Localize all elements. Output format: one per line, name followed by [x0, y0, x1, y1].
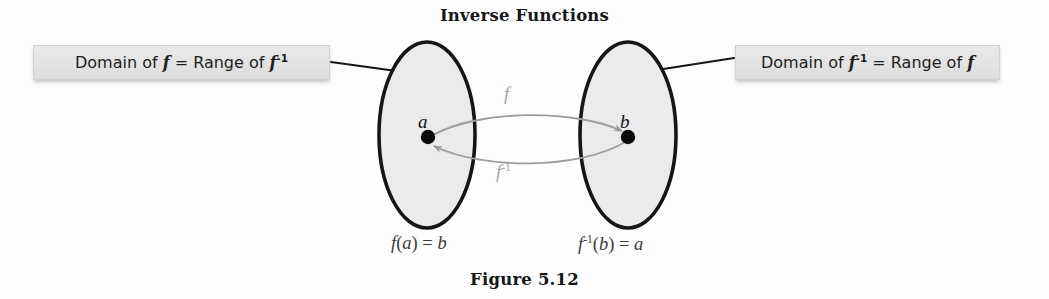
callout-right-var1: f — [849, 54, 856, 73]
callout-left-exponent2: -1 — [276, 52, 288, 64]
point-label-a: a — [418, 112, 428, 131]
equation-inverse: f-1(b) = a — [578, 234, 643, 254]
equation-right-equals: = — [614, 234, 634, 254]
callout-left-middle: = Range of — [170, 54, 270, 73]
equation-right-result: a — [634, 234, 643, 254]
callout-right-text: Domain of f-1 = Range of f — [761, 53, 974, 71]
callout-domain-f: Domain of f = Range of f-1 — [33, 45, 330, 80]
callout-left-text: Domain of f = Range of f-1 — [75, 53, 288, 71]
callout-left-prefix: Domain of — [75, 54, 163, 73]
point-label-b: b — [620, 112, 630, 131]
equation-right-arg: b — [599, 234, 608, 254]
inverse-functions-figure: Inverse Functions Domain of f = Range of… — [0, 0, 1049, 299]
mapping-label-forward: f — [504, 84, 509, 103]
mapping-inverse-exponent: -1 — [501, 161, 511, 173]
callout-left-var1: f — [163, 54, 170, 73]
mapping-forward-symbol: f — [504, 83, 509, 104]
callout-right-prefix: Domain of — [761, 54, 849, 73]
callout-domain-f-inverse: Domain of f-1 = Range of f — [735, 45, 1000, 80]
equation-left-result: b — [437, 233, 446, 253]
callout-right-var2: f — [967, 54, 974, 73]
equation-left-arg: a — [402, 233, 411, 253]
equation-left-equals: = — [418, 233, 438, 253]
mapping-label-inverse: f-1 — [496, 162, 511, 181]
callout-right-middle: = Range of — [867, 54, 967, 73]
equation-forward: f(a) = b — [391, 234, 447, 253]
figure-caption: Figure 5.12 — [0, 270, 1049, 289]
equation-right-exponent: -1 — [583, 233, 593, 245]
callout-right-exponent1: -1 — [856, 52, 868, 64]
